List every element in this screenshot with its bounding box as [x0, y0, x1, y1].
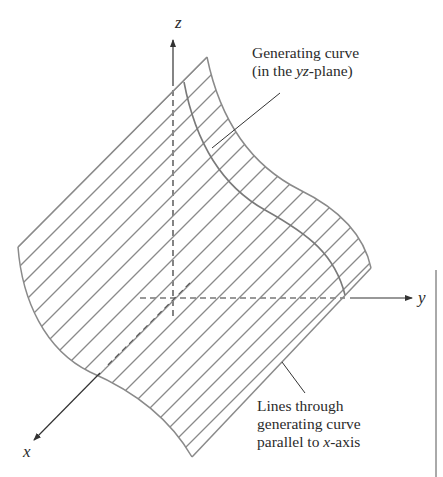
text-segment: (in the [252, 62, 296, 79]
top-edge [18, 57, 207, 247]
rulings-line2: generating curve [257, 415, 361, 433]
rulings-leader [282, 362, 305, 393]
rulings-line1: Lines through [257, 397, 361, 415]
x-axis [34, 373, 100, 440]
generating-curve [184, 82, 345, 295]
generating-curve-line1: Generating curve [252, 44, 359, 62]
cylinder-diagram [0, 0, 443, 477]
front-edge-curve [18, 247, 192, 457]
rulings-annotation: Lines through generating curve parallel … [257, 397, 361, 451]
x-axis-label: x [23, 443, 31, 461]
text-segment-italic: yz [296, 62, 309, 79]
z-axis-label: z [175, 14, 182, 32]
generating-curve-leader [212, 93, 280, 148]
back-edge-curve [207, 57, 371, 268]
rulings-line3: parallel to x-axis [257, 433, 361, 451]
generating-curve-annotation: Generating curve (in the yz-plane) [252, 44, 359, 80]
generating-curve-line2: (in the yz-plane) [252, 62, 359, 80]
text-segment: -axis [330, 433, 360, 450]
leader-lines [212, 93, 305, 393]
y-axis-label: y [418, 289, 426, 307]
visible-axes [34, 40, 412, 440]
text-segment: parallel to [257, 433, 323, 450]
text-segment: -plane) [309, 62, 353, 79]
